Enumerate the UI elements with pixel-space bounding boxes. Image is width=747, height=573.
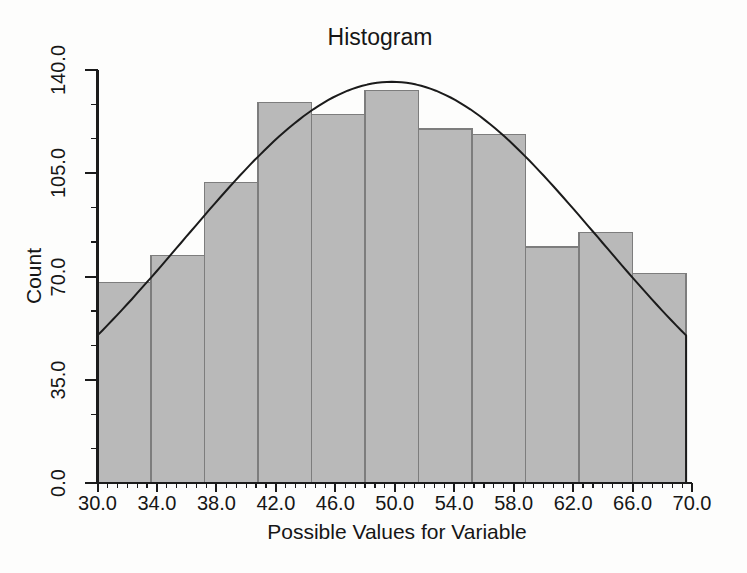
- plot-area: [0, 0, 747, 573]
- y-tick-label: 35.0: [48, 360, 68, 399]
- x-tick-label: 30.0: [78, 493, 117, 513]
- y-tick-label: 140.0: [48, 45, 68, 95]
- y-axis-label: Count: [23, 248, 44, 304]
- y-tick-label: 70.0: [48, 257, 68, 296]
- histogram-figure: Histogram Possible Values for Variable C…: [0, 0, 747, 573]
- chart-title: Histogram: [328, 26, 433, 49]
- x-tick-label: 58.0: [494, 493, 533, 513]
- x-tick-label: 70.0: [673, 493, 712, 513]
- histogram-bar: [205, 182, 259, 483]
- histogram-bar: [526, 247, 580, 483]
- histogram-bar: [472, 135, 526, 483]
- x-tick-label: 38.0: [197, 493, 236, 513]
- y-tick-label: 0.0: [48, 469, 68, 497]
- histogram-bar: [98, 282, 152, 483]
- x-tick-label: 46.0: [316, 493, 355, 513]
- x-tick-label: 54.0: [435, 493, 474, 513]
- x-tick-label: 34.0: [137, 493, 176, 513]
- histogram-bar: [419, 129, 473, 483]
- histogram-bar: [633, 274, 687, 483]
- x-tick-label: 50.0: [375, 493, 414, 513]
- x-tick-label: 66.0: [613, 493, 652, 513]
- y-tick-label: 105.0: [48, 148, 68, 198]
- x-tick-label: 62.0: [554, 493, 593, 513]
- x-axis-label: Possible Values for Variable: [267, 521, 527, 542]
- histogram-bar: [365, 91, 419, 483]
- x-tick-label: 42.0: [256, 493, 295, 513]
- histogram-bar: [258, 102, 312, 483]
- histogram-bar: [312, 114, 366, 483]
- histogram-bar: [151, 256, 205, 483]
